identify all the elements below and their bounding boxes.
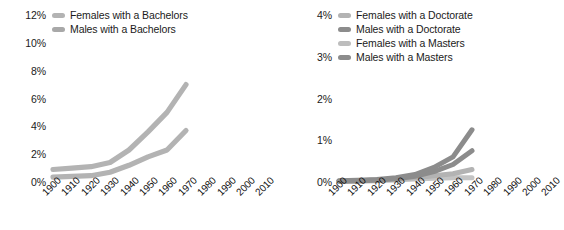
y-axis-tick-label: 6%: [8, 93, 46, 105]
chart-pair-figure: Females with a Bachelors Males with a Ba…: [0, 0, 564, 230]
y-axis-tick-label: 0%: [8, 176, 46, 188]
advanced-degrees-line-svg: [336, 15, 564, 185]
y-axis-tick-label: 4%: [294, 9, 332, 21]
advanced-degrees-plot-area: [336, 15, 564, 185]
y-axis-tick-label: 10%: [8, 37, 46, 49]
y-axis-tick-label: 0%: [294, 176, 332, 188]
y-axis-tick-label: 8%: [8, 65, 46, 77]
y-axis-tick-label: 1%: [294, 134, 332, 146]
y-axis-tick-label: 2%: [294, 93, 332, 105]
advanced-degrees-chart: Females with a Doctorate Males with a Do…: [282, 0, 564, 230]
bachelors-chart: Females with a Bachelors Males with a Ba…: [0, 0, 282, 230]
series-line-females-bachelors: [53, 85, 186, 170]
bachelors-plot-area: [50, 15, 285, 185]
y-axis-tick-label: 3%: [294, 51, 332, 63]
y-axis-tick-label: 4%: [8, 120, 46, 132]
y-axis-tick-label: 2%: [8, 148, 46, 160]
bachelors-line-svg: [50, 15, 285, 185]
y-axis-tick-label: 12%: [8, 9, 46, 21]
